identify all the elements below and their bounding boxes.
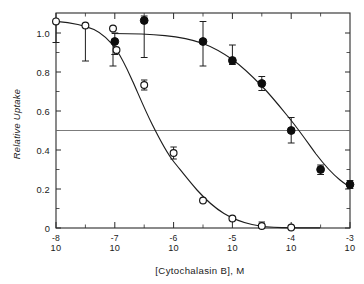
- y-tick-label-1-0: 1.0: [36, 29, 50, 39]
- error-bars-filled-circles: [111, 16, 353, 189]
- data-point: [110, 25, 117, 32]
- data-point: [111, 38, 119, 46]
- chart-svg: 0 0.2 0.4 0.6 0.8 1.0: [0, 0, 364, 284]
- y-tick-label-0: 0: [45, 224, 50, 234]
- data-point: [140, 17, 148, 25]
- data-point: [317, 166, 325, 174]
- x-tick-exp--6: -6: [170, 233, 178, 243]
- data-point: [258, 80, 266, 88]
- data-point: [199, 38, 207, 46]
- y-tick-label-0-4: 0.4: [36, 146, 50, 156]
- y-tick-label-0-6: 0.6: [36, 107, 50, 117]
- curve-open-circles: [56, 21, 320, 228]
- x-tick-exp--4: -4: [287, 233, 295, 243]
- chart-figure: 0 0.2 0.4 0.6 0.8 1.0: [0, 0, 364, 284]
- data-points-filled-circles: [111, 17, 354, 189]
- x-tick-base--7: 10: [109, 243, 120, 253]
- error-bars-open-circles: [53, 23, 266, 229]
- x-tick-exp--5: -5: [228, 233, 236, 243]
- x-tick-base--5: 10: [227, 243, 238, 253]
- data-point: [287, 127, 295, 135]
- data-point: [258, 223, 265, 230]
- x-tick-base--8: 10: [51, 243, 62, 253]
- x-tick-exp--7: -7: [111, 233, 119, 243]
- x-axis: -8 10 -7 10 -6 10 -5 10 -4 10 -3 10: [51, 222, 356, 253]
- data-point: [229, 57, 237, 65]
- x-tick-base--3: 10: [345, 243, 356, 253]
- data-point: [82, 22, 89, 29]
- x-axis-title: [Cytochalasin B], M: [155, 265, 244, 276]
- y-tick-label-0-8: 0.8: [36, 68, 50, 78]
- data-point: [200, 197, 207, 204]
- x-tick-base--6: 10: [168, 243, 179, 253]
- data-point: [53, 18, 60, 25]
- data-point: [229, 215, 236, 222]
- data-points-open-circles: [53, 18, 295, 231]
- data-point: [170, 150, 177, 157]
- top-axis-ticks: [56, 13, 321, 19]
- x-tick-exp--3: -3: [346, 233, 354, 243]
- x-tick-base--4: 10: [286, 243, 297, 253]
- data-point: [288, 224, 295, 231]
- data-point: [346, 181, 354, 189]
- x-tick-exp--8: -8: [52, 233, 60, 243]
- data-point: [113, 47, 120, 54]
- y-axis: 0 0.2 0.4 0.6 0.8 1.0: [36, 29, 61, 234]
- y-tick-label-0-2: 0.2: [36, 185, 50, 195]
- data-point: [141, 82, 148, 89]
- y-axis-title: Relative Uptake: [11, 89, 22, 160]
